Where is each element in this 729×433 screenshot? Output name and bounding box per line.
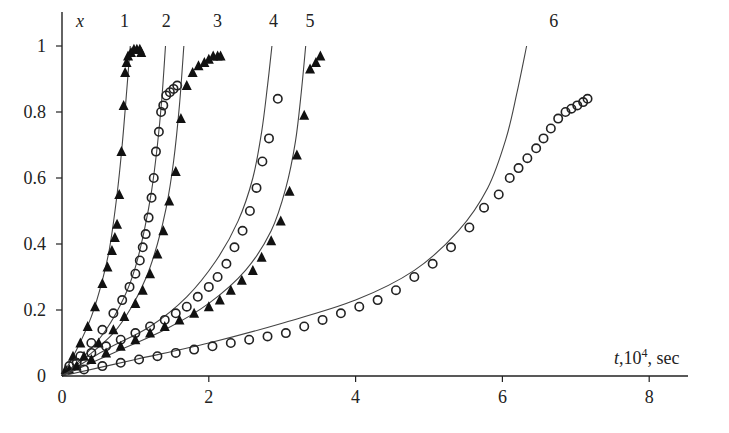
- data-point-triangle: [83, 321, 93, 331]
- data-point-circle: [118, 296, 126, 304]
- data-point-circle: [147, 194, 155, 202]
- curve-number-label: 5: [306, 11, 315, 31]
- plot-series: [61, 44, 592, 376]
- data-point-triangle: [119, 100, 129, 110]
- y-axis-title: x: [75, 11, 84, 31]
- data-point-circle: [246, 207, 254, 215]
- y-ticks: 00.20.40.60.81: [24, 36, 63, 386]
- data-point-triangle: [237, 275, 247, 285]
- data-point-circle: [465, 223, 473, 231]
- data-point-circle: [514, 164, 522, 172]
- data-point-circle: [282, 329, 290, 337]
- data-point-circle: [392, 286, 400, 294]
- data-point-triangle: [116, 146, 126, 156]
- data-point-circle: [87, 339, 95, 347]
- data-point-circle: [213, 273, 221, 281]
- data-point-triangle: [182, 80, 192, 90]
- data-point-circle: [523, 154, 531, 162]
- data-point-circle: [495, 190, 503, 198]
- data-point-triangle: [158, 225, 168, 235]
- data-point-triangle: [138, 285, 148, 295]
- data-point-circle: [227, 339, 235, 347]
- data-point-circle: [447, 243, 455, 251]
- model-curve: [62, 46, 130, 376]
- data-point-triangle: [315, 50, 325, 60]
- x-tick-label: 0: [58, 387, 67, 407]
- curve-number-label: 2: [162, 11, 171, 31]
- data-point-circle: [98, 326, 106, 334]
- data-point-triangle: [145, 268, 155, 278]
- curve-labels: 123456: [120, 11, 558, 31]
- x-tick-label: 8: [645, 387, 654, 407]
- x-axis-title-rest: ,10: [619, 348, 642, 368]
- x-tick-label: 6: [498, 387, 507, 407]
- y-tick-label: 1: [37, 36, 46, 56]
- data-point-triangle: [226, 285, 236, 295]
- data-point-triangle: [97, 278, 107, 288]
- data-point-circle: [172, 349, 180, 357]
- data-point-circle: [506, 174, 514, 182]
- curve-number-label: 4: [269, 11, 278, 31]
- data-point-circle: [480, 204, 488, 212]
- data-point-circle: [318, 316, 326, 324]
- data-point-triangle: [152, 248, 162, 258]
- data-point-circle: [547, 124, 555, 132]
- data-point-circle: [208, 342, 216, 350]
- data-point-circle: [265, 134, 273, 142]
- y-tick-label: 0.6: [24, 168, 47, 188]
- data-point-circle: [554, 114, 562, 122]
- y-tick-label: 0.4: [24, 234, 47, 254]
- data-point-triangle: [176, 113, 186, 123]
- chart: 00.20.40.60.81 02468 x t,104, sec 123456: [0, 0, 729, 433]
- data-point-circle: [131, 270, 139, 278]
- model-curve: [62, 46, 527, 376]
- data-point-circle: [300, 322, 308, 330]
- curve-number-label: 1: [120, 11, 129, 31]
- y-tick-label: 0.2: [24, 300, 47, 320]
- data-point-circle: [532, 144, 540, 152]
- data-point-triangle: [103, 262, 113, 272]
- data-point-circle: [410, 273, 418, 281]
- data-point-circle: [144, 213, 152, 221]
- data-point-circle: [274, 95, 282, 103]
- data-point-circle: [141, 230, 149, 238]
- data-point-circle: [183, 303, 191, 311]
- x-tick-label: 2: [204, 387, 213, 407]
- data-point-circle: [245, 336, 253, 344]
- data-point-triangle: [90, 301, 100, 311]
- data-point-triangle: [75, 338, 85, 348]
- x-axis-title: t,104, sec: [614, 346, 680, 368]
- data-point-circle: [238, 227, 246, 235]
- data-point-circle: [153, 352, 161, 360]
- data-point-circle: [428, 260, 436, 268]
- y-tick-label: 0.8: [24, 102, 47, 122]
- data-point-circle: [258, 157, 266, 165]
- y-tick-label: 0: [37, 366, 46, 386]
- x-axis-title-unit: , sec: [648, 348, 680, 368]
- data-point-triangle: [107, 245, 117, 255]
- data-point-triangle: [299, 110, 309, 120]
- data-point-triangle: [164, 196, 174, 206]
- data-point-circle: [355, 303, 363, 311]
- data-point-circle: [139, 243, 147, 251]
- data-point-circle: [263, 332, 271, 340]
- curve-number-label: 6: [549, 11, 558, 31]
- data-point-circle: [194, 293, 202, 301]
- data-point-circle: [539, 134, 547, 142]
- curve-number-label: 3: [213, 11, 222, 31]
- data-point-triangle: [130, 298, 140, 308]
- x-ticks: 02468: [58, 376, 654, 407]
- data-point-circle: [222, 260, 230, 268]
- data-point-circle: [373, 296, 381, 304]
- data-point-circle: [337, 309, 345, 317]
- data-point-circle: [252, 184, 260, 192]
- data-point-triangle: [114, 189, 124, 199]
- data-point-triangle: [215, 295, 225, 305]
- x-tick-label: 4: [351, 387, 360, 407]
- data-point-circle: [230, 243, 238, 251]
- data-point-circle: [205, 283, 213, 291]
